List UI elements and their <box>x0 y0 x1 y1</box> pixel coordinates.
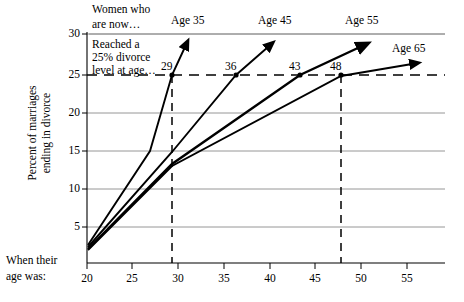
point-label-43: 43 <box>289 60 301 73</box>
y-tick-label-25: 25 <box>58 68 80 81</box>
callout-header-line2: are now… <box>92 18 140 31</box>
callout-note-line1: Reached a <box>92 38 140 51</box>
callout-note-line2: 25% divorce <box>92 51 150 64</box>
x-tick-label-35: 35 <box>213 272 235 285</box>
x-tick-label-50: 50 <box>350 272 372 285</box>
crossing-point-36 <box>233 72 238 77</box>
x-tick-marks <box>87 263 407 269</box>
x-tick-label-45: 45 <box>304 272 326 285</box>
series-line-age-45 <box>88 47 268 247</box>
crossing-point-43 <box>297 72 302 77</box>
series-label-age-45: Age 45 <box>258 14 292 27</box>
series-label-age-65: Age 65 <box>392 42 426 55</box>
y-tick-marks <box>82 34 87 227</box>
y-axis-title-line1: Percent of marriages <box>26 18 39 248</box>
y-tick-label-5: 5 <box>58 220 80 233</box>
y-axis-title-line2: ending in divorce <box>40 18 53 248</box>
x-tick-label-55: 55 <box>396 272 418 285</box>
x-tick-label-20: 20 <box>76 272 98 285</box>
point-label-36: 36 <box>225 60 237 73</box>
y-tick-label-15: 15 <box>58 144 80 157</box>
x-tick-label-25: 25 <box>121 272 143 285</box>
series-label-age-55: Age 55 <box>345 14 379 27</box>
x-axis-title-line2: age was: <box>6 270 46 283</box>
x-axis-title-line1: When their <box>6 254 57 267</box>
crossing-point-48 <box>338 72 343 77</box>
y-tick-label-30: 30 <box>58 27 80 40</box>
point-label-29: 29 <box>161 60 173 73</box>
callout-header-line1: Women who <box>92 3 150 16</box>
crossing-point-29 <box>169 72 174 77</box>
divorce-rate-line-chart: 30 25 20 15 10 5 20 25 30 35 40 45 50 55… <box>0 0 464 302</box>
y-tick-label-10: 10 <box>58 182 80 195</box>
point-label-48: 48 <box>330 60 342 73</box>
x-tick-label-40: 40 <box>259 272 281 285</box>
series-line-age-65 <box>88 64 412 250</box>
y-tick-label-20: 20 <box>58 106 80 119</box>
series-label-age-35: Age 35 <box>171 14 205 27</box>
series-line-age-55 <box>88 47 360 249</box>
x-tick-label-30: 30 <box>167 272 189 285</box>
callout-note-line3: level at age… <box>92 64 156 77</box>
